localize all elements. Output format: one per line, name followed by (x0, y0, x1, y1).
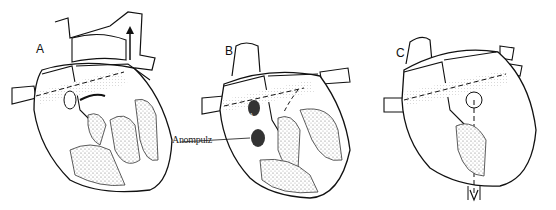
heart-illustration-b (180, 0, 370, 210)
heart-illustration-a (0, 0, 190, 210)
panel-c: C (370, 0, 556, 210)
panel-label-a: A (36, 42, 44, 56)
panel-label-c: C (396, 46, 405, 60)
heart-illustration-c (370, 0, 556, 210)
inset-label: DA (245, 112, 253, 118)
panel-label-b: B (225, 44, 233, 58)
panel-b: B Anompulz DA (180, 0, 370, 210)
anomaly-annotation: Anompulz (172, 134, 212, 145)
panel-a: A (0, 0, 190, 210)
